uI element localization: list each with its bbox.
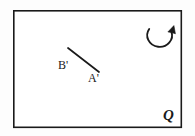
point-label-b-prime: B'	[58, 59, 68, 71]
region-label-q: Q	[163, 108, 174, 123]
rotation-figure: B' A' Q	[0, 0, 195, 136]
plane-boundary-rectangle	[14, 11, 182, 128]
point-label-a-prime: A'	[88, 72, 99, 84]
